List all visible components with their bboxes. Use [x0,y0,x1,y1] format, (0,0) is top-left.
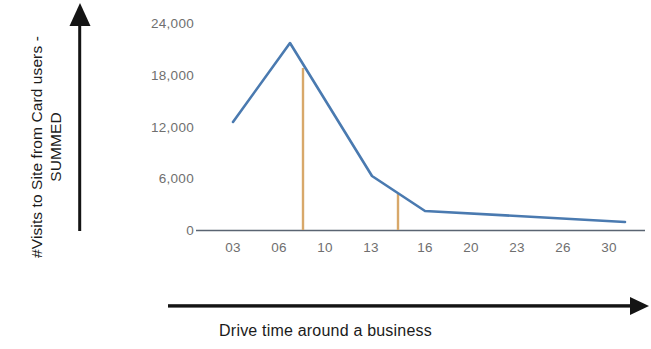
x-axis-arrow-icon [168,294,650,318]
x-tick-label: 16 [405,240,445,255]
x-tick-label: 26 [543,240,583,255]
x-tick-label: 30 [589,240,629,255]
x-tick-label: 13 [351,240,391,255]
plot-area [0,0,651,280]
chart-canvas: #Visits to Site from Card users - SUMMED… [0,0,651,349]
x-tick-label: 10 [305,240,345,255]
x-axis-title: Drive time around a business [0,322,651,340]
x-tick-label: 20 [451,240,491,255]
x-tick-label: 03 [213,240,253,255]
x-tick-label: 23 [497,240,537,255]
x-tick-label: 06 [259,240,299,255]
series-line-visits [233,43,625,222]
